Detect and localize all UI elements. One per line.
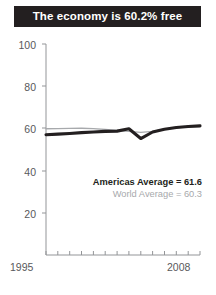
y-tick-label-60: 60 (8, 124, 36, 135)
plot-area: 100 80 60 40 20 1995 2008 (0, 0, 216, 295)
y-tick-label-100: 100 (8, 40, 36, 51)
x-tick-label-end: 2008 (167, 262, 190, 273)
x-tick-marks (46, 251, 200, 255)
legend-item-americas-average: Americas Average = 61.6 (93, 176, 202, 188)
legend-item-world-average: World Average = 60.3 (93, 188, 202, 200)
y-tick-label-20: 20 (8, 209, 36, 220)
y-tick-label-40: 40 (8, 167, 36, 178)
chart-container: The economy is 60.2% free (0, 0, 216, 295)
chart-legend: Americas Average = 61.6 World Average = … (93, 176, 202, 200)
x-tick-label-start: 1995 (10, 262, 33, 273)
y-tick-label-80: 80 (8, 82, 36, 93)
